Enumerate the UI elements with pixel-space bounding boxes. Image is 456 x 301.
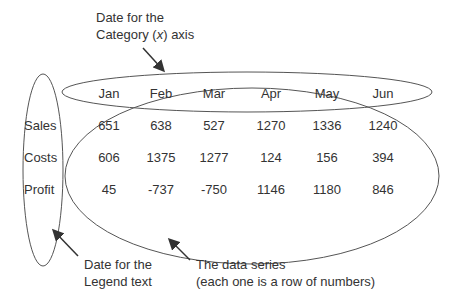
cell-costs-feb: 1375 (136, 150, 186, 165)
cell-costs-jun: 394 (358, 150, 408, 165)
row-label-sales: Sales (24, 118, 57, 133)
category-arrow-icon (143, 48, 163, 70)
category-annotation-line2: Category (x) axis (96, 26, 194, 43)
cell-profit-feb: -737 (136, 182, 186, 197)
cell-sales-may: 1336 (302, 118, 352, 133)
cell-sales-feb: 638 (136, 118, 186, 133)
legend-annotation: Date for the Legend text (84, 256, 152, 290)
cell-costs-apr: 124 (246, 150, 296, 165)
legend-annotation-line1: Date for the (84, 256, 152, 273)
legend-ellipse (23, 74, 63, 266)
series-annotation-line2: (each one is a row of numbers) (196, 273, 375, 290)
cell-profit-jan: 45 (84, 182, 134, 197)
cell-costs-jan: 606 (84, 150, 134, 165)
cell-sales-jun: 1240 (358, 118, 408, 133)
cell-profit-mar: -750 (189, 182, 239, 197)
category-annotation-line1: Date for the (96, 9, 194, 26)
category-annotation: Date for the Category (x) axis (96, 9, 194, 43)
row-label-profit: Profit (24, 182, 54, 197)
cell-profit-apr: 1146 (246, 182, 296, 197)
legend-annotation-line2: Legend text (84, 273, 152, 290)
category-header-jun: Jun (365, 86, 401, 101)
legend-arrow-icon (54, 231, 78, 256)
category-header-may: May (309, 86, 345, 101)
category-header-jan: Jan (91, 86, 127, 101)
category-header-mar: Mar (196, 86, 232, 101)
category-header-apr: Apr (253, 86, 289, 101)
cell-profit-may: 1180 (302, 182, 352, 197)
cell-sales-mar: 527 (189, 118, 239, 133)
category-header-feb: Feb (143, 86, 179, 101)
series-annotation: The data series (each one is a row of nu… (196, 256, 375, 290)
cell-sales-apr: 1270 (246, 118, 296, 133)
cell-profit-jun: 846 (358, 182, 408, 197)
cell-costs-may: 156 (302, 150, 352, 165)
series-ellipse (65, 88, 439, 264)
row-label-costs: Costs (24, 150, 57, 165)
series-annotation-line1: The data series (196, 256, 375, 273)
cell-costs-mar: 1277 (189, 150, 239, 165)
cell-sales-jan: 651 (84, 118, 134, 133)
